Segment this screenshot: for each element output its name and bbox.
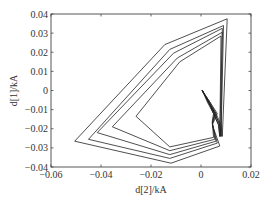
x-tick-label: −0.02 xyxy=(139,169,162,180)
y-tick-label: 0.03 xyxy=(31,28,49,39)
y-axis-label: d[1]/kA xyxy=(8,74,19,106)
y-tick-label: −0.04 xyxy=(25,162,48,173)
series-lines xyxy=(75,19,228,163)
x-tick-label: 0 xyxy=(199,169,204,180)
y-tick-label: −0.01 xyxy=(25,104,48,115)
y-tick-labels: 0.040.030.020.010−0.01−0.02−0.03−0.04 xyxy=(25,9,48,173)
y-tick-label: −0.02 xyxy=(25,123,48,134)
x-tick-labels: −0.06−0.04−0.0200.02 xyxy=(39,169,259,180)
x-tick-label: −0.04 xyxy=(89,169,112,180)
y-tick-label: 0.02 xyxy=(31,47,49,58)
x-tick-label: 0.02 xyxy=(242,169,260,180)
y-tick-label: 0.04 xyxy=(31,9,49,20)
series-line-4 xyxy=(112,32,222,151)
x-axis-label: d[2]/kA xyxy=(135,184,167,195)
hysteresis-chart: −0.06−0.04−0.0200.02 0.040.030.020.010−0… xyxy=(0,0,264,202)
series-line-5 xyxy=(136,36,221,147)
y-tick-label: 0 xyxy=(43,85,48,96)
y-tick-label: −0.03 xyxy=(25,142,48,153)
y-tick-label: 0.01 xyxy=(31,66,49,77)
